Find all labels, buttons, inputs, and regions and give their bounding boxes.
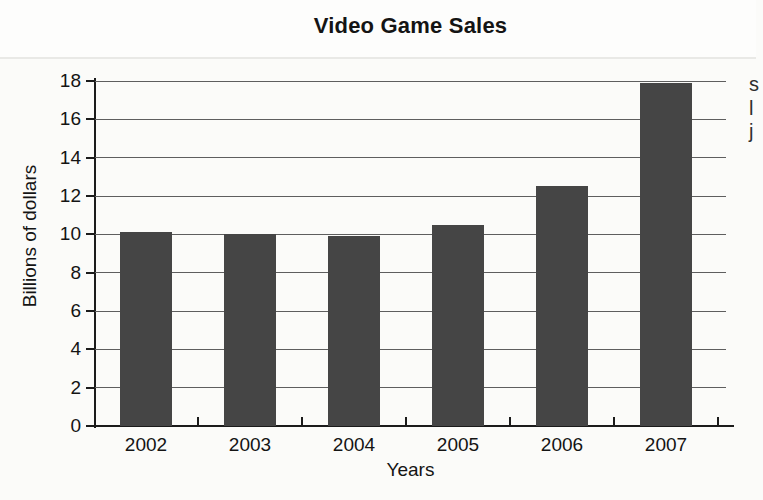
x-axis-tick — [301, 417, 303, 426]
bar-2003 — [224, 234, 276, 426]
bar-2007 — [640, 83, 692, 426]
cropped-text-fragment: s — [749, 74, 763, 94]
x-axis-tick — [405, 417, 407, 426]
y-tick-label: 16 — [33, 108, 81, 130]
y-tick-label: 2 — [33, 377, 81, 399]
y-gridline — [95, 349, 726, 350]
bar-2004 — [328, 236, 380, 426]
y-axis-tick — [86, 157, 95, 159]
x-tick-label: 2005 — [413, 434, 503, 456]
x-tick-label: 2002 — [101, 434, 191, 456]
bar-2002 — [120, 232, 172, 426]
x-axis-tick — [509, 417, 511, 426]
y-axis-tick — [86, 272, 95, 274]
y-gridline — [95, 157, 726, 158]
x-axis-tick — [613, 417, 615, 426]
y-tick-label: 18 — [33, 70, 81, 92]
x-tick-label: 2003 — [205, 434, 295, 456]
y-gridline — [95, 196, 726, 197]
y-tick-label: 14 — [33, 147, 81, 169]
y-axis-tick — [86, 118, 95, 120]
y-axis-tick — [86, 80, 95, 82]
x-axis-tick — [717, 417, 719, 426]
x-axis-tick — [197, 417, 199, 426]
chart-title: Video Game Sales — [95, 13, 726, 39]
y-tick-label: 8 — [33, 262, 81, 284]
x-tick-label: 2004 — [309, 434, 399, 456]
y-tick-label: 4 — [33, 338, 81, 360]
x-tick-label: 2006 — [517, 434, 607, 456]
y-axis-tick — [86, 425, 95, 427]
y-axis-tick — [86, 387, 95, 389]
plot-area: 024681012141618200220032004200520062007 — [95, 81, 726, 426]
y-tick-label: 6 — [33, 300, 81, 322]
y-gridline — [95, 387, 726, 388]
y-gridline — [95, 272, 726, 273]
x-tick-label: 2007 — [621, 434, 711, 456]
y-axis-tick — [86, 233, 95, 235]
y-gridline — [95, 311, 726, 312]
y-axis-tick — [86, 195, 95, 197]
y-gridline — [95, 81, 726, 82]
y-tick-label: 0 — [33, 415, 81, 437]
y-gridline — [95, 234, 726, 235]
bar-2006 — [536, 186, 588, 426]
y-tick-label: 10 — [33, 223, 81, 245]
y-axis-tick — [86, 348, 95, 350]
x-axis-title: Years — [95, 459, 726, 481]
y-axis-tick — [86, 310, 95, 312]
cropped-text-fragment: j — [749, 121, 763, 141]
bar-2005 — [432, 225, 484, 426]
y-gridline — [95, 119, 726, 120]
cropped-text-fragment: l — [749, 98, 763, 118]
y-tick-label: 12 — [33, 185, 81, 207]
